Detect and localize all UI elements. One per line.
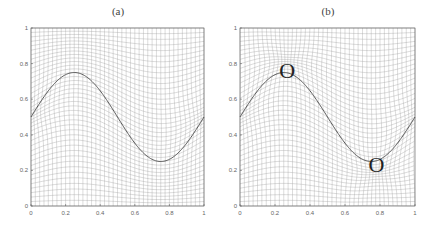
mesh-line-vertical — [49, 28, 52, 206]
x-tick-label: 0 — [238, 210, 242, 216]
mesh-line-vertical — [382, 28, 387, 205]
mesh-line-vertical — [307, 28, 310, 206]
y-tick-label: 1 — [25, 25, 29, 31]
mesh-line-vertical — [363, 28, 367, 206]
marker-o: O — [279, 58, 295, 83]
mesh-line-vertical — [250, 28, 255, 206]
mesh-line-vertical — [174, 28, 176, 206]
mesh-line-vertical — [191, 28, 194, 206]
y-tick-label: 0.8 — [20, 61, 29, 67]
mesh-line-vertical — [161, 28, 162, 206]
y-tick-label: 0.2 — [20, 167, 29, 173]
y-tick-label: 0.6 — [229, 96, 238, 102]
mesh-line-vertical — [358, 28, 362, 206]
mesh-line-vertical — [322, 28, 324, 206]
mesh-line-vertical — [195, 28, 198, 206]
y-tick-label: 1 — [234, 25, 238, 31]
panel-a: (a) 00.20.40.60.8100.20.40.60.81 — [20, 5, 207, 216]
mesh-line-vertical — [371, 28, 373, 205]
x-tick-label: 0.2 — [271, 210, 280, 216]
mesh-line-vertical — [64, 28, 66, 206]
mesh-line-vertical — [336, 28, 337, 206]
mesh-line-vertical — [37, 28, 40, 206]
mesh-line-vertical — [273, 29, 278, 206]
x-tick-label: 1 — [413, 210, 417, 216]
marker-o: O — [369, 152, 385, 177]
panel-b: (b) 00.20.40.60.8100.20.40.60.81OO — [229, 5, 418, 216]
y-tick-label: 0.8 — [229, 61, 238, 67]
mesh-line-vertical — [278, 29, 281, 206]
mesh-line-vertical — [268, 28, 274, 206]
y-tick-label: 0.2 — [229, 167, 238, 173]
mesh-line-vertical — [340, 28, 342, 206]
mesh-line-vertical — [317, 28, 319, 206]
y-tick-label: 0.4 — [229, 132, 238, 138]
mesh-line-vertical — [34, 28, 35, 206]
x-tick-label: 1 — [202, 210, 206, 216]
mesh-line-vertical — [74, 28, 75, 206]
mesh-line-vertical — [169, 28, 171, 206]
mesh-line-vertical — [312, 28, 315, 206]
mesh-line-vertical — [291, 29, 293, 206]
mesh-line-vertical — [394, 28, 401, 206]
x-tick-label: 0 — [29, 210, 33, 216]
y-tick-label: 0 — [25, 203, 29, 209]
x-tick-label: 0.4 — [96, 210, 105, 216]
figure: (a) 00.20.40.60.8100.20.40.60.81 (b) 00.… — [0, 0, 433, 228]
x-tick-label: 0.2 — [61, 210, 70, 216]
mesh-line-vertical — [294, 29, 297, 206]
mesh-line-vertical — [246, 28, 250, 206]
x-tick-label: 0.6 — [131, 210, 140, 216]
y-tick-label: 0.6 — [20, 96, 29, 102]
mesh-line-vertical — [379, 28, 382, 205]
x-tick-label: 0.8 — [376, 210, 385, 216]
mesh-line-horizontal — [240, 120, 415, 153]
mesh-line-vertical — [243, 28, 245, 206]
panel-b-title: (b) — [322, 5, 335, 18]
mesh-line-vertical — [376, 28, 377, 205]
mesh-line-vertical — [41, 28, 44, 206]
mesh-line-vertical — [331, 28, 332, 206]
mesh-line-vertical — [182, 28, 185, 206]
panel-a-title: (a) — [112, 5, 125, 18]
x-tick-label: 0.6 — [341, 210, 350, 216]
y-tick-label: 0.4 — [20, 132, 29, 138]
mesh-line-horizontal — [240, 82, 415, 115]
mesh-line-vertical — [283, 29, 285, 206]
x-tick-label: 0.8 — [165, 210, 174, 216]
y-tick-label: 0 — [234, 203, 238, 209]
x-tick-label: 0.4 — [306, 210, 315, 216]
mesh-line-vertical — [367, 28, 370, 205]
mesh-line-vertical — [59, 28, 61, 206]
mesh-line-vertical — [200, 28, 201, 206]
mesh-line-vertical — [404, 28, 409, 206]
